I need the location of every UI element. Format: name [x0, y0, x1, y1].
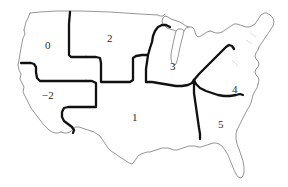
divider-region2-region1 — [86, 55, 148, 82]
lake-erie-huron-shore — [184, 27, 210, 37]
divider-region5-west — [194, 80, 200, 139]
state-hint-northeast — [246, 33, 256, 44]
region-label-0: 0 — [45, 40, 51, 51]
us-region-map: 0 2 −2 1 3 4 5 — [0, 0, 288, 187]
northeast-north-border — [210, 24, 255, 33]
region-label-minus-2: −2 — [42, 90, 54, 101]
northeast-coast — [255, 13, 274, 47]
divider-regionminus2-region1 — [62, 81, 96, 133]
southwest-mexico-border — [61, 127, 91, 133]
northern-border — [30, 11, 165, 16]
divider-region0-south — [21, 63, 86, 81]
divider-region3-connector — [146, 55, 148, 82]
south-atlantic-coast — [237, 84, 258, 130]
mid-atlantic-coast — [255, 47, 259, 84]
divider-region3-west — [148, 25, 170, 55]
texas-gulf-coast — [91, 131, 210, 164]
region-label-5: 5 — [218, 119, 224, 130]
region-label-4: 4 — [232, 84, 238, 95]
lake-michigan-west-shore — [162, 16, 176, 31]
region-label-3: 3 — [170, 61, 176, 72]
state-hint-appalachia — [232, 60, 238, 66]
divider-region3-region4 — [194, 45, 234, 80]
region-label-1: 1 — [132, 112, 138, 123]
divider-region3-region1 — [146, 80, 194, 86]
pacific-northwest-coast — [24, 13, 30, 30]
florida-peninsula — [210, 130, 244, 178]
divider-region0-region2 — [69, 12, 86, 57]
region-label-2: 2 — [107, 33, 113, 44]
state-hint-lines-group — [232, 33, 256, 66]
